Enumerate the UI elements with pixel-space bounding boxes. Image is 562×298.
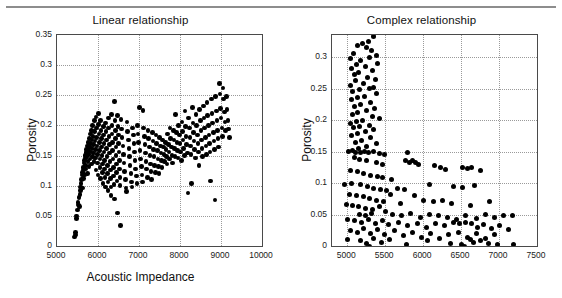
scatter-point [80,186,85,191]
grid-line-vertical [499,35,500,246]
scatter-point [398,201,403,206]
scatter-point [404,242,409,247]
scatter-point [358,182,363,187]
scatter-point [511,242,516,247]
x-tick-label: 7000 [489,250,508,260]
scatter-point [371,127,376,132]
scatter-point [125,120,130,125]
grid-line-vertical [221,35,222,246]
grid-line-vertical [461,35,462,246]
scatter-point [110,123,115,128]
scatter-point [358,102,363,107]
scatter-point [226,118,231,123]
scatter-point [135,181,140,186]
scatter-point [446,232,451,237]
scatter-point [109,112,114,117]
x-tick-label: 6000 [413,250,432,260]
scatter-point [157,171,162,176]
y-tick-label: 0.25 [35,89,52,99]
grid-line-horizontal [57,65,262,66]
scatter-point [138,148,143,153]
scatter-point [189,181,194,186]
scatter-point [131,133,136,138]
scatter-point [483,212,488,217]
scatter-point [374,91,379,96]
scatter-point [456,230,461,235]
scatter-point [501,213,506,218]
scatter-point [369,48,374,53]
scatter-point [443,167,448,172]
scatter-point [345,237,350,242]
scatter-point [349,133,354,138]
scatter-point [457,221,462,226]
scatter-point [133,167,138,172]
scatter-point [128,163,133,168]
scatter-point [440,198,445,203]
scatter-point [365,75,370,80]
scatter-point [492,232,497,237]
scatter-point [495,242,500,247]
scatter-point [375,61,380,66]
scatter-point [193,156,198,161]
scatter-point [510,213,515,218]
x-tick-label: 5500 [375,250,394,260]
scatter-point [377,204,382,209]
scatter-point [410,230,415,235]
scatter-point [449,201,454,206]
scatter-point [134,174,139,179]
scatter-point [412,193,417,198]
scatter-point [365,184,370,189]
scatter-point [437,236,442,241]
scatter-point [348,83,353,88]
scatter-point [462,244,467,248]
scatter-point [371,236,376,241]
scatter-point [350,112,355,117]
scatter-point [121,152,126,157]
scatter-point [355,110,360,115]
scatter-point [347,192,352,197]
scatter-point [113,118,118,123]
scatter-point [129,180,134,185]
scatter-point [355,230,360,235]
scatter-point [367,55,372,60]
scatter-point [180,129,185,134]
scatter-point [506,227,511,232]
scatter-point [363,64,368,69]
scatter-point [98,118,103,123]
scatter-point [425,238,430,243]
scatter-point [225,107,230,112]
plot-area-linear [56,34,263,247]
x-tick-label: 9000 [211,250,230,260]
scatter-point [77,204,82,209]
y-tick-label: 0.1 [40,180,52,190]
scatter-point [345,217,350,222]
scatter-point [421,198,426,203]
scatter-point [190,105,195,110]
scatter-point [362,94,367,99]
scatter-point [363,206,368,211]
scatter-point [350,203,355,208]
scatter-point [377,116,382,121]
scatter-point [117,167,122,172]
scatter-point [360,118,365,123]
y-tick-label: 0.3 [40,59,52,69]
scatter-point [127,146,132,151]
scatter-point [352,104,357,109]
plot-area-complex [331,34,538,247]
scatter-point [350,89,355,94]
scatter-point [112,197,117,202]
scatter-point [208,179,213,184]
grid-line-horizontal [57,216,262,217]
scatter-point [140,173,145,178]
scatter-point [352,218,357,223]
scatter-point [356,204,361,209]
chart-title-linear: Linear relationship [0,14,281,26]
scatter-point [123,177,128,182]
scatter-point [355,169,360,174]
scatter-point [179,158,184,163]
grid-line-horizontal [332,57,537,58]
scatter-point [194,112,199,117]
scatter-point [355,95,360,100]
scatter-point [170,161,175,166]
scatter-point [463,220,468,225]
